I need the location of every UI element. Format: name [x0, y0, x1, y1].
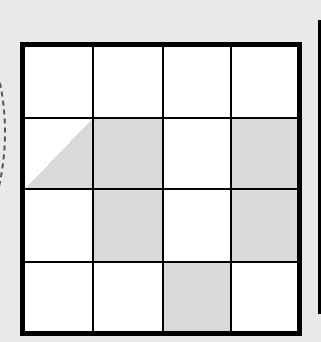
grid-cell-r1-c4: [231, 47, 297, 118]
grid-cell-r3-c4: [231, 189, 297, 262]
grid-cell-r3-c1: [25, 189, 93, 262]
grid-horizontal-line: [25, 117, 297, 119]
grid-cell-r2-c2: [93, 118, 163, 189]
grid-cell-r4-c1: [25, 262, 93, 331]
grid-cell-r2-c1: [25, 118, 93, 189]
grid-cell-r4-c2: [93, 262, 163, 331]
grid-cell-r2-c3: [163, 118, 231, 189]
grid-horizontal-line: [25, 261, 297, 263]
grid-cell-r3-c3: [163, 189, 231, 262]
grid-cell-r4-c4: [231, 262, 297, 331]
grid-cell-r1-c3: [163, 47, 231, 118]
dashed-arc-decoration: [0, 70, 12, 195]
diagram-stage: [0, 0, 321, 342]
grid-cell-r1-c1: [25, 47, 93, 118]
grid-cell-r3-c2: [93, 189, 163, 262]
puzzle-grid: [20, 42, 302, 336]
grid-horizontal-line: [25, 188, 297, 190]
grid-cell-r2-c4: [231, 118, 297, 189]
grid-cell-r4-c3: [163, 262, 231, 331]
grid-cell-r1-c2: [93, 47, 163, 118]
